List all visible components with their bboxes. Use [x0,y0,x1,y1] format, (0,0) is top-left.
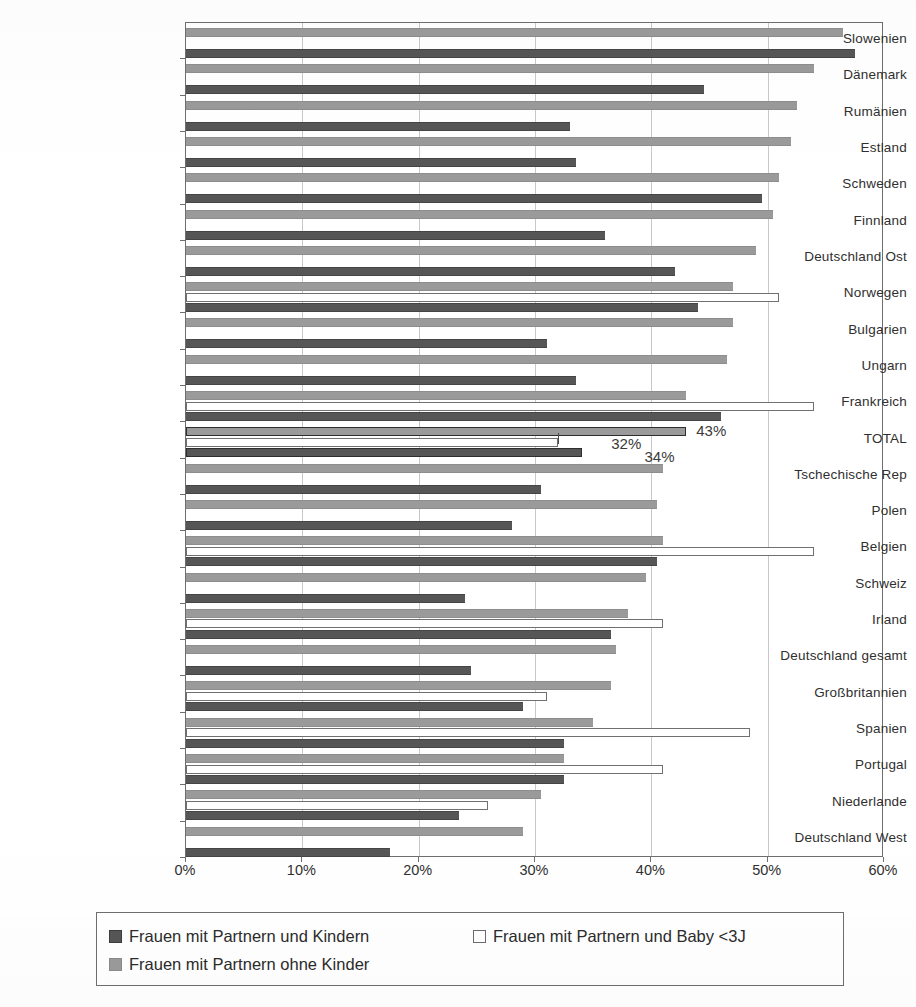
category-tick [180,530,185,531]
x-axis-tick-20 [418,857,419,862]
category-label-bulgarien: Bulgarien [736,322,916,337]
x-axis-label-30: 30% [519,862,548,878]
category-label-portugal: Portugal [736,757,916,772]
x-axis-label-60: 60% [868,862,897,878]
x-axis-tick-40 [650,857,651,862]
legend-label-ohne-kinder: Frauen mit Partnern ohne Kinder [129,955,369,974]
legend-swatch-dark-icon [109,930,122,943]
chart-legend: Frauen mit Partnern und Kindern Frauen m… [96,912,844,986]
bar-chart: 43%32%34% SlowenienDänemarkRumänienEstla… [0,0,916,1007]
category-label-ungarn: Ungarn [736,358,916,373]
category-label-deutschland-west: Deutschland West [736,830,916,845]
legend-item-ohne-kinder: Frauen mit Partnern ohne Kinder [109,955,473,974]
x-axis-label-40: 40% [636,862,665,878]
category-label-gro-britannien: Großbritannien [736,685,916,700]
category-tick [180,784,185,785]
category-tick [180,385,185,386]
category-tick [180,639,185,640]
x-axis-label-50: 50% [752,862,781,878]
category-label-rum-nien: Rumänien [736,104,916,119]
category-tick [180,167,185,168]
category-tick [180,421,185,422]
category-label-deutschland-ost: Deutschland Ost [736,249,916,264]
category-label-estland: Estland [736,140,916,155]
category-label-d-nemark: Dänemark [736,67,916,82]
category-axis-labels: SlowenienDänemarkRumänienEstlandSchweden… [0,0,916,1007]
category-tick [180,712,185,713]
x-axis-tick-0 [185,857,186,862]
category-tick [180,131,185,132]
category-label-schweiz: Schweiz [736,576,916,591]
category-tick [180,675,185,676]
category-label-finnland: Finnland [736,213,916,228]
category-label-niederlande: Niederlande [736,794,916,809]
x-axis-labels: 0%10%20%30%40%50%60% [0,862,916,886]
category-tick [180,95,185,96]
category-tick [180,494,185,495]
category-tick [180,349,185,350]
category-label-slowenien: Slowenien [736,31,916,46]
category-tick [180,603,185,604]
category-label-irland: Irland [736,612,916,627]
category-label-polen: Polen [736,503,916,518]
legend-label-baby: Frauen mit Partnern und Baby <3J [493,927,746,946]
category-label-total: TOTAL [736,431,916,446]
category-label-tschechische-rep: Tschechische Rep [736,467,916,482]
category-tick [180,821,185,822]
x-axis-tick-30 [534,857,535,862]
legend-swatch-white-icon [473,930,486,943]
category-tick [180,567,185,568]
category-tick [180,312,185,313]
x-axis-label-10: 10% [287,862,316,878]
x-axis-tick-10 [301,857,302,862]
category-label-deutschland-gesamt: Deutschland gesamt [736,648,916,663]
x-axis-tick-60 [883,857,884,862]
category-label-schweden: Schweden [736,176,916,191]
category-label-norwegen: Norwegen [736,285,916,300]
legend-item-mit-kindern: Frauen mit Partnern und Kindern [109,927,473,946]
legend-label-mit-kindern: Frauen mit Partnern und Kindern [129,927,369,946]
category-tick [180,458,185,459]
x-axis-label-20: 20% [403,862,432,878]
category-tick [180,240,185,241]
category-label-spanien: Spanien [736,721,916,736]
category-tick [180,58,185,59]
category-tick [180,276,185,277]
x-axis-tick-50 [767,857,768,862]
legend-item-baby: Frauen mit Partnern und Baby <3J [473,927,746,946]
x-axis-label-0: 0% [175,862,196,878]
legend-row-1: Frauen mit Partnern und Kindern Frauen m… [109,922,831,950]
legend-row-2: Frauen mit Partnern ohne Kinder [109,950,831,978]
category-label-belgien: Belgien [736,539,916,554]
category-label-frankreich: Frankreich [736,394,916,409]
legend-swatch-gray-icon [109,958,122,971]
category-tick [180,748,185,749]
category-tick [180,204,185,205]
